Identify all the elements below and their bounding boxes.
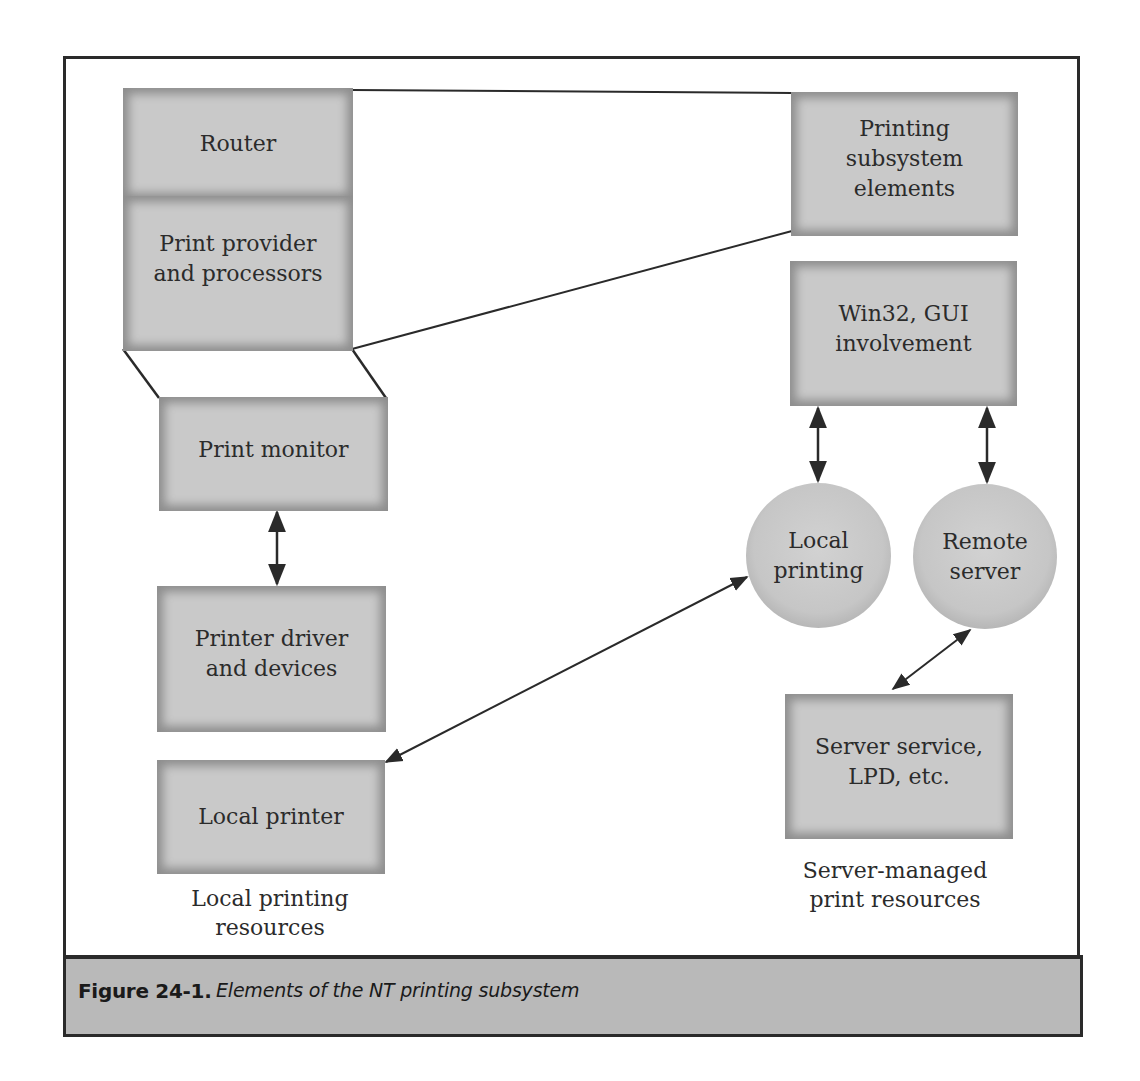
- server-service-label: Server service, LPD, etc.: [815, 732, 983, 792]
- print-provider-box: Print provider and processors: [123, 196, 353, 351]
- remote-server-label: Remote server: [942, 527, 1028, 587]
- printer-driver-label: Printer driver and devices: [195, 624, 349, 684]
- router-box: Router: [123, 88, 353, 199]
- remote-server-node: Remote server: [913, 484, 1057, 629]
- win32-gui-box: Win32, GUI involvement: [790, 261, 1017, 406]
- server-service-box: Server service, LPD, etc.: [785, 694, 1013, 839]
- local-printer-box: Local printer: [157, 760, 385, 874]
- figure-caption: Figure 24-1. Elements of the NT printing…: [63, 955, 1083, 1037]
- local-printing-label: Local printing: [774, 526, 864, 586]
- server-resources-label: Server-managed print resources: [775, 856, 1015, 914]
- printer-driver-box: Printer driver and devices: [157, 586, 386, 732]
- figure-title: Elements of the NT printing subsystem: [216, 979, 579, 1001]
- print-monitor-box: Print monitor: [159, 397, 388, 511]
- figure-number: Figure 24-1.: [78, 979, 212, 1003]
- local-resources-label: Local printing resources: [150, 884, 390, 942]
- printing-subsystem-box: Printing subsystem elements: [791, 92, 1018, 236]
- printing-subsystem-label: Printing subsystem elements: [846, 114, 963, 204]
- print-monitor-label: Print monitor: [198, 435, 348, 465]
- local-printing-node: Local printing: [746, 483, 891, 628]
- router-label: Router: [200, 129, 276, 159]
- print-provider-label: Print provider and processors: [153, 229, 322, 289]
- local-printer-label: Local printer: [198, 802, 344, 832]
- win32-gui-label: Win32, GUI involvement: [835, 299, 971, 359]
